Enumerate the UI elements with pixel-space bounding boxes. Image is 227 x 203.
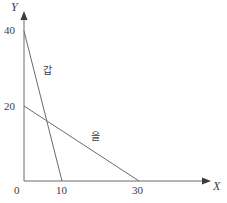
line-gap: [24, 31, 62, 181]
plot-area: [0, 0, 227, 203]
line-eul: [24, 106, 139, 181]
y-axis: [21, 11, 28, 181]
series-label-gap: 갑: [43, 66, 52, 76]
series-label-eul: 을: [91, 132, 100, 142]
y-tick-label-20: 20: [4, 101, 15, 112]
budget-line-figure: Y X 40 20 0 10 30 갑 을: [0, 0, 227, 203]
x-tick-label-10: 10: [56, 185, 67, 196]
y-tick-label-40: 40: [4, 25, 15, 36]
x-axis-label: X: [213, 180, 220, 192]
x-tick-label-30: 30: [132, 185, 143, 196]
x-axis: [24, 178, 211, 185]
origin-tick-label: 0: [14, 185, 20, 196]
y-axis-label: Y: [11, 1, 18, 13]
